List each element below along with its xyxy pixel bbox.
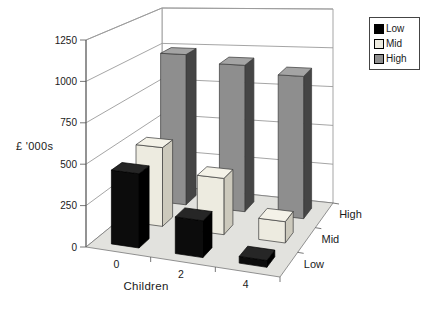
value-tick-label-750: 750 <box>60 117 77 128</box>
series-tick-1 <box>315 228 321 229</box>
value-tick-label-1000: 1000 <box>55 76 78 87</box>
bar-low-children-0 <box>111 163 149 249</box>
value-tick-label-250: 250 <box>60 200 77 211</box>
legend-label: Mid <box>386 39 402 49</box>
category-tick-label-4: 4 <box>243 278 249 290</box>
value-tick-label-1250: 1250 <box>55 35 78 46</box>
bar-front-face <box>278 75 303 219</box>
bar-front-face <box>175 217 203 258</box>
bar-front-face <box>259 218 286 243</box>
bar-mid-children-4 <box>259 208 294 243</box>
legend-swatch-high <box>374 54 384 64</box>
bar-front-face <box>111 170 139 248</box>
bar-side-face <box>224 170 233 235</box>
legend-item-low: Low <box>374 21 419 36</box>
plot-area: 025050075010001250024LowMidHigh <box>0 0 429 314</box>
bar-side-face <box>139 166 149 248</box>
category-tick-label-2: 2 <box>178 268 184 280</box>
legend-label: Low <box>386 24 404 34</box>
legend-item-high: High <box>374 51 419 66</box>
series-tick-0 <box>298 252 304 253</box>
bar-side-face <box>163 140 173 227</box>
value-axis-title: £ '000s <box>16 140 53 152</box>
value-tick-label-0: 0 <box>71 242 77 253</box>
bar-side-face <box>186 49 196 205</box>
category-tick-label-0: 0 <box>113 258 119 270</box>
bar-low-children-2 <box>175 208 212 258</box>
three-d-bar-chart: 025050075010001250024LowMidHigh £ '000s … <box>0 0 429 314</box>
value-tick-label-500: 500 <box>60 159 77 170</box>
legend: LowMidHigh <box>369 17 420 70</box>
legend-item-mid: Mid <box>374 36 419 51</box>
series-tick-label-Low: Low <box>304 258 324 270</box>
bar-side-face <box>304 68 312 219</box>
category-axis-title: Children <box>96 280 196 292</box>
bar-high-children-4 <box>278 67 311 219</box>
legend-label: High <box>386 54 407 64</box>
bar-side-face <box>245 58 254 212</box>
legend-swatch-low <box>374 24 384 34</box>
series-tick-label-Mid: Mid <box>322 233 340 245</box>
series-tick-2 <box>333 203 339 204</box>
series-tick-label-High: High <box>339 208 362 220</box>
legend-swatch-mid <box>374 39 384 49</box>
